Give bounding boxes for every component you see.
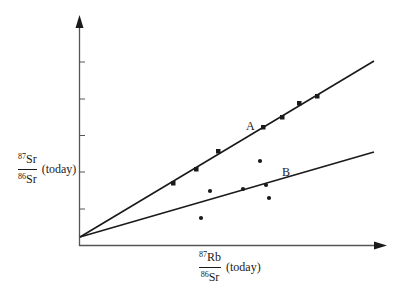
isotope-number: 87 bbox=[199, 250, 207, 259]
data-point-square bbox=[315, 94, 320, 99]
y-axis-label: 87Sr 86Sr (today) bbox=[18, 152, 76, 187]
data-point-circle bbox=[264, 183, 268, 187]
y-axis-suffix: (today) bbox=[42, 162, 77, 177]
fraction-bar bbox=[18, 169, 37, 170]
fraction-bar bbox=[199, 267, 221, 268]
series-b-points bbox=[199, 159, 271, 220]
data-point-square bbox=[194, 167, 199, 172]
data-point-square bbox=[171, 181, 176, 186]
x-axis-suffix: (today) bbox=[226, 260, 261, 275]
isotope-number: 86 bbox=[201, 270, 209, 279]
isochron-line-a bbox=[80, 61, 374, 237]
data-point-circle bbox=[267, 196, 271, 200]
element-symbol: Sr bbox=[26, 172, 37, 186]
data-point-circle bbox=[208, 189, 212, 193]
x-axis-label: 87Rb 86Sr (today) bbox=[199, 250, 261, 285]
data-point-square bbox=[297, 101, 302, 106]
line-label-b: B bbox=[282, 165, 290, 179]
x-axis-denominator: 86Sr bbox=[199, 270, 221, 285]
x-axis-arrow-icon bbox=[374, 242, 387, 250]
data-point-circle bbox=[199, 216, 203, 220]
element-symbol: Rb bbox=[207, 250, 221, 264]
y-axis-denominator: 86Sr bbox=[18, 172, 37, 187]
data-point-circle bbox=[258, 159, 262, 163]
data-point-square bbox=[280, 115, 285, 120]
x-axis-numerator: 87Rb bbox=[199, 250, 221, 265]
isotope-number: 87 bbox=[18, 152, 26, 161]
data-point-circle bbox=[241, 187, 245, 191]
line-label-a: A bbox=[246, 119, 255, 133]
data-point-square bbox=[216, 149, 221, 154]
y-ticks bbox=[80, 62, 86, 209]
y-axis-arrow-icon bbox=[76, 15, 84, 28]
x-axis-fraction: 87Rb 86Sr bbox=[199, 250, 221, 285]
isochron-line-b bbox=[80, 152, 374, 237]
element-symbol: Sr bbox=[26, 152, 37, 166]
y-axis-fraction: 87Sr 86Sr bbox=[18, 152, 37, 187]
y-axis-numerator: 87Sr bbox=[18, 152, 37, 167]
element-symbol: Sr bbox=[209, 270, 220, 284]
data-point-square bbox=[261, 125, 266, 130]
isotope-number: 86 bbox=[18, 172, 26, 181]
